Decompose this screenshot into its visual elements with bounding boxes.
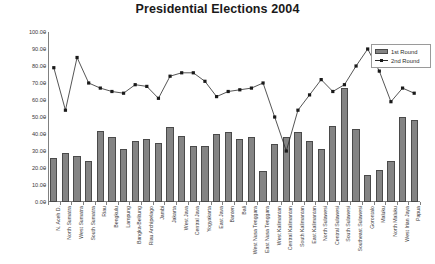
- line-marker: [122, 92, 125, 95]
- legend-line-marker-icon: [375, 58, 388, 63]
- x-axis-tick-label: Southeast Sulawesi: [358, 206, 363, 252]
- line-marker: [110, 90, 113, 93]
- x-axis-tick-label: Central Java: [195, 206, 200, 235]
- line-marker: [366, 47, 369, 50]
- y-axis-tick-mark: [43, 185, 46, 186]
- line-marker: [378, 70, 381, 73]
- y-axis-tick-label: 60.00: [2, 97, 46, 103]
- line-marker: [413, 92, 416, 95]
- line-marker: [215, 95, 218, 98]
- x-axis-tick-label: North Sumatra: [67, 206, 72, 240]
- x-axis-tick-label: South Sulawesi: [346, 206, 351, 242]
- x-axis-tick-label: Central Kalimantan: [288, 206, 293, 250]
- legend-item-2nd-round: 2nd Round: [375, 56, 428, 65]
- x-axis-tick-mark: [153, 202, 154, 205]
- x-axis-tick-mark: [269, 202, 270, 205]
- y-axis-tick-label: 70.00: [2, 80, 46, 86]
- x-axis-tick-mark: [304, 202, 305, 205]
- y-axis-tick-label: 100.00: [2, 29, 46, 35]
- x-axis-tick-label: West Kalimantan: [277, 206, 282, 245]
- legend-item-1st-round: 1st Round: [375, 47, 428, 56]
- x-axis-tick-label: South Sumatra: [91, 206, 96, 241]
- y-axis-tick-mark: [43, 83, 46, 84]
- line-marker: [168, 75, 171, 78]
- x-axis-tick-mark: [374, 202, 375, 205]
- x-axis-tick-label: East Kalimantan: [312, 206, 317, 244]
- x-axis-tick-mark: [48, 202, 49, 205]
- x-axis-tick-label: Bali: [242, 206, 247, 215]
- x-axis-tick-label: Bengkulu: [114, 206, 119, 228]
- y-axis-tick-mark: [43, 49, 46, 50]
- x-axis-tick-mark: [339, 202, 340, 205]
- x-axis-tick-mark: [315, 202, 316, 205]
- line-marker: [192, 71, 195, 74]
- x-axis-tick-mark: [222, 202, 223, 205]
- line-marker: [227, 90, 230, 93]
- y-axis-tick-label: 30.00: [2, 148, 46, 154]
- x-axis-tick-label: East Nusa Tenggara: [265, 206, 270, 253]
- line-marker: [308, 93, 311, 96]
- x-axis-tick-mark: [71, 202, 72, 205]
- x-axis-tick-mark: [199, 202, 200, 205]
- y-axis-tick-label: 20.00: [2, 165, 46, 171]
- x-axis-tick-label: Banten: [230, 206, 235, 222]
- x-axis-tick-mark: [83, 202, 84, 205]
- line-marker: [75, 56, 78, 59]
- line-marker: [157, 97, 160, 100]
- line-marker: [87, 81, 90, 84]
- y-axis-tick-mark: [43, 202, 46, 203]
- line-series-2nd-round: [48, 32, 420, 202]
- x-axis-tick-label: East Java: [219, 206, 224, 229]
- legend-label-2nd-round: 2nd Round: [391, 58, 419, 64]
- y-axis-tick-label: 0.00: [2, 199, 46, 205]
- x-axis-tick-label: Maluku: [381, 206, 386, 223]
- legend-bar-swatch-icon: [375, 49, 388, 54]
- x-axis-tick-label: Gorontalo: [370, 206, 375, 229]
- line-marker: [261, 81, 264, 84]
- x-axis-tick-mark: [257, 202, 258, 205]
- line-marker: [64, 109, 67, 112]
- y-axis: 0.0010.0020.0030.0040.0050.0060.0070.008…: [0, 32, 46, 202]
- legend-label-1st-round: 1st Round: [391, 49, 417, 55]
- line-marker: [354, 64, 357, 67]
- line-marker: [389, 100, 392, 103]
- plot-area: [48, 32, 420, 202]
- y-axis-tick-mark: [43, 151, 46, 152]
- x-axis-tick-label: West Java: [184, 206, 189, 230]
- x-axis-tick-label: West Nusa Tenggara: [253, 206, 258, 254]
- line-marker: [331, 90, 334, 93]
- x-axis-tick-mark: [246, 202, 247, 205]
- y-axis-tick-label: 40.00: [2, 131, 46, 137]
- line-path: [54, 49, 414, 151]
- x-axis-labels: N. Aceh D.North SumatraWest SumatraSouth…: [48, 206, 420, 264]
- chart-container: Presidential Elections 2004 0.0010.0020.…: [0, 0, 435, 264]
- x-axis-tick-mark: [397, 202, 398, 205]
- x-axis-tick-label: Central Sulawesi: [335, 206, 340, 245]
- x-axis-tick-mark: [362, 202, 363, 205]
- x-axis-tick-mark: [188, 202, 189, 205]
- x-axis-tick-mark: [350, 202, 351, 205]
- x-axis-tick-label: N. Aceh D.: [56, 206, 61, 231]
- x-axis-tick-mark: [141, 202, 142, 205]
- x-axis-tick-mark: [129, 202, 130, 205]
- line-marker: [285, 149, 288, 152]
- x-axis-tick-label: North Sulawesi: [323, 206, 328, 241]
- x-axis-tick-mark: [176, 202, 177, 205]
- y-axis-tick-label: 90.00: [2, 46, 46, 52]
- chart-legend: 1st Round 2nd Round: [371, 44, 431, 68]
- x-axis-tick-mark: [118, 202, 119, 205]
- line-marker: [52, 66, 55, 69]
- line-marker: [401, 87, 404, 90]
- y-axis-tick-mark: [43, 32, 46, 33]
- x-axis-tick-label: Riau: [102, 206, 107, 217]
- chart-title: Presidential Elections 2004: [0, 2, 435, 16]
- x-axis-tick-label: Bangka-Belitung: [137, 206, 142, 244]
- line-marker: [180, 71, 183, 74]
- y-axis-tick-mark: [43, 117, 46, 118]
- x-axis-tick-label: Jakarta: [172, 206, 177, 223]
- x-axis-tick-mark: [292, 202, 293, 205]
- x-axis-tick-mark: [327, 202, 328, 205]
- x-axis-tick-label: Jambi: [160, 206, 165, 220]
- x-axis-tick-label: Papua: [416, 206, 421, 221]
- x-axis-tick-mark: [95, 202, 96, 205]
